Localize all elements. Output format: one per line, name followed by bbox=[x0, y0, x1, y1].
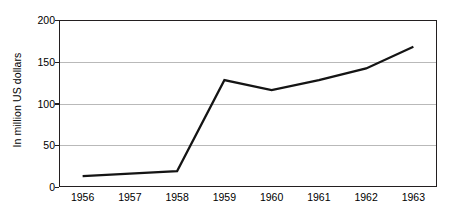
y-axis-tick-marks bbox=[55, 21, 59, 188]
y-axis-title-label: In million US dollars bbox=[11, 53, 23, 148]
x-axis-tick-label: 1959 bbox=[201, 192, 248, 212]
y-axis-tick-labels: 050100150200 bbox=[28, 0, 55, 217]
x-axis-tick-label: 1961 bbox=[295, 192, 342, 212]
plot-area bbox=[59, 20, 437, 187]
y-axis-tick-label: 150 bbox=[37, 57, 55, 68]
plot-svg bbox=[59, 20, 437, 187]
x-axis-tick-label: 1962 bbox=[343, 192, 390, 212]
x-axis-tick-label: 1958 bbox=[154, 192, 201, 212]
y-axis-tick-label: 200 bbox=[37, 15, 55, 26]
data-series bbox=[83, 47, 414, 176]
x-axis-tick-label: 1956 bbox=[59, 192, 106, 212]
y-axis-tick-label: 50 bbox=[43, 140, 55, 151]
line-chart-figure: In million US dollars 050100150200 19561… bbox=[0, 0, 455, 217]
x-axis-tick-label: 1960 bbox=[248, 192, 295, 212]
x-axis-tick-label: 1963 bbox=[390, 192, 437, 212]
series-line bbox=[83, 47, 414, 176]
x-axis-tick-labels: 19561957195819591960196119621963 bbox=[59, 192, 437, 212]
y-axis-tick-label: 0 bbox=[49, 182, 55, 193]
gridlines bbox=[59, 62, 437, 146]
y-axis-tick-label: 100 bbox=[37, 98, 55, 109]
x-axis-tick-label: 1957 bbox=[106, 192, 153, 212]
